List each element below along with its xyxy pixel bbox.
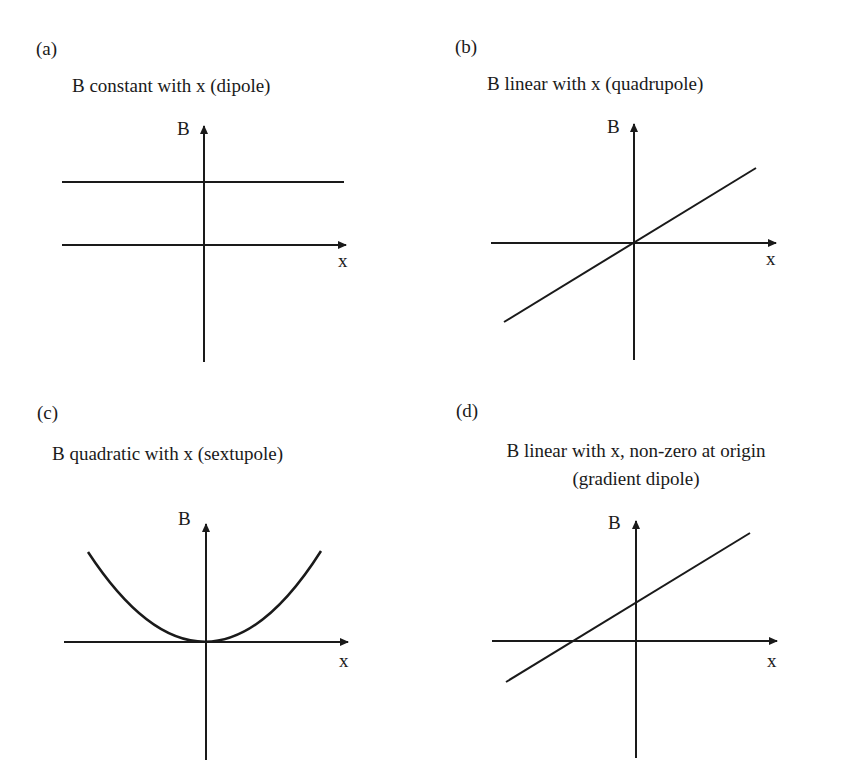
panel-c-plot: [64, 524, 348, 760]
panel-d-linear-offset-curve: [506, 533, 750, 682]
panel-d-plot: [492, 521, 777, 758]
panel-b-linear-curve: [504, 168, 756, 322]
panel-b-plot: [491, 124, 776, 360]
diagram-canvas: [0, 0, 842, 779]
panel-c-quadratic-curve: [88, 551, 321, 642]
panel-a-plot: [62, 126, 346, 362]
